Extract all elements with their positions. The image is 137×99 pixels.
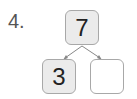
whole-box: 7	[65, 10, 99, 45]
part-box-left: 3	[42, 59, 76, 94]
part-box-right-answer[interactable]	[90, 59, 124, 94]
